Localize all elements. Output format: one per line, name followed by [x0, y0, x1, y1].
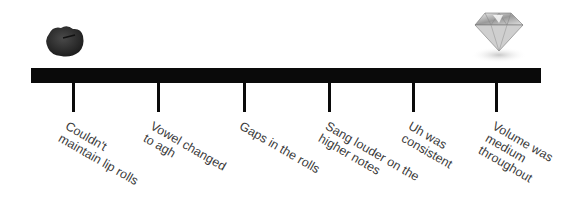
rock-icon: [43, 24, 87, 58]
timeline-tick: [243, 83, 246, 112]
timeline-tick: [157, 83, 160, 112]
timeline-bar: [31, 68, 541, 83]
diamond-icon: [463, 5, 533, 63]
timeline-label: Volume was medium throughout: [476, 119, 555, 189]
timeline-label: Gaps in the rolls: [237, 119, 322, 176]
timeline-tick: [72, 83, 75, 112]
timeline-label: Vowel changed to agh: [141, 119, 228, 186]
timeline-tick: [328, 83, 331, 112]
timeline-label: Couldn't maintain lip rolls: [56, 119, 148, 188]
timeline-tick: [412, 83, 415, 112]
timeline-tick: [495, 83, 498, 112]
